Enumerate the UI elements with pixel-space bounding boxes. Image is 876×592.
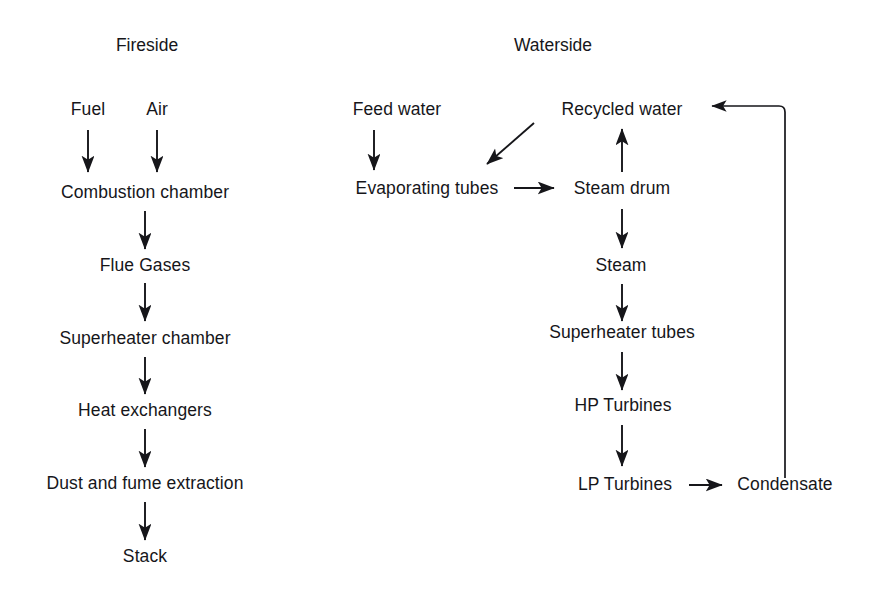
node-evaporating-tubes: Evaporating tubes	[356, 180, 499, 198]
node-fuel: Fuel	[71, 101, 105, 119]
node-air: Air	[146, 101, 168, 119]
arrow-recycled-water-to-evaporating-tubes	[487, 123, 534, 164]
node-flue-gases: Flue Gases	[100, 257, 190, 275]
column-title-fireside: Fireside	[116, 37, 178, 55]
node-feed-water: Feed water	[353, 101, 442, 119]
edge-layer	[0, 0, 876, 592]
node-combustion-chamber: Combustion chamber	[61, 184, 229, 202]
arrow-condensate-to-recycled-water	[712, 106, 785, 478]
node-superheater-tubes: Superheater tubes	[549, 324, 695, 342]
node-steam: Steam	[595, 257, 646, 275]
node-lp-turbines: LP Turbines	[578, 476, 672, 494]
node-dust-and-fume-extraction: Dust and fume extraction	[47, 475, 244, 493]
node-heat-exchangers: Heat exchangers	[78, 402, 212, 420]
node-condensate: Condensate	[737, 476, 832, 494]
node-stack: Stack	[123, 548, 167, 566]
node-superheater-chamber: Superheater chamber	[59, 330, 230, 348]
flowchart-canvas: Fireside Waterside Fuel Air Combustion c…	[0, 0, 876, 592]
column-title-waterside: Waterside	[514, 37, 592, 55]
node-recycled-water: Recycled water	[561, 101, 682, 119]
node-hp-turbines: HP Turbines	[574, 397, 671, 415]
node-steam-drum: Steam drum	[574, 180, 670, 198]
